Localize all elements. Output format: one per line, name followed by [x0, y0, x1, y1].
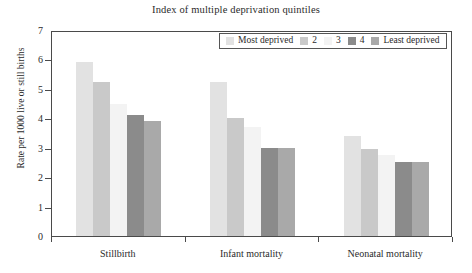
legend-swatch-icon — [371, 37, 379, 45]
y-tick-label: 1 — [3, 203, 43, 213]
bar — [395, 162, 412, 236]
bar — [278, 148, 295, 236]
legend-entry: Least deprived — [371, 36, 439, 46]
bar — [93, 82, 110, 237]
bar — [378, 155, 395, 236]
legend-entry: Most deprived — [226, 36, 293, 46]
bar — [261, 148, 278, 236]
bar — [210, 82, 227, 237]
bar — [361, 149, 378, 236]
y-tick-label: 7 — [3, 26, 43, 36]
y-tick-label: 5 — [3, 85, 43, 95]
x-tick-mark — [318, 237, 319, 242]
legend-swatch-icon — [226, 37, 234, 45]
bar — [144, 121, 161, 236]
bar — [412, 162, 429, 236]
legend-label: 4 — [360, 36, 365, 46]
x-tick-mark — [185, 237, 186, 242]
deprivation-quintiles-bar-chart: Index of multiple deprivation quintiles … — [0, 0, 472, 273]
legend-entry: 4 — [348, 36, 365, 46]
x-tick-mark — [452, 237, 453, 242]
legend-swatch-icon — [324, 37, 332, 45]
chart-legend: Most deprived234Least deprived — [219, 33, 447, 49]
bar — [110, 104, 127, 236]
bar — [244, 127, 261, 236]
legend-swatch-icon — [300, 37, 308, 45]
legend-entry: 2 — [300, 36, 317, 46]
y-tick-label: 2 — [3, 173, 43, 183]
x-tick-mark — [51, 237, 52, 242]
y-tick-label: 6 — [3, 55, 43, 65]
y-tick-label: 4 — [3, 114, 43, 124]
x-category-label-neonatal-mortality: Neonatal mortality — [318, 248, 452, 259]
y-tick-label: 0 — [3, 232, 43, 242]
legend-label: 2 — [312, 36, 317, 46]
bar — [227, 118, 244, 236]
bar — [344, 136, 361, 236]
chart-title: Index of multiple deprivation quintiles — [0, 4, 472, 15]
bar — [76, 62, 93, 236]
legend-label: 3 — [336, 36, 341, 46]
plot-area — [51, 31, 452, 237]
x-category-label-infant-mortality: Infant mortality — [185, 248, 319, 259]
legend-entry: 3 — [324, 36, 341, 46]
legend-swatch-icon — [348, 37, 356, 45]
y-tick-label: 3 — [3, 144, 43, 154]
bar — [127, 115, 144, 236]
x-category-label-stillbirth: Stillbirth — [51, 248, 185, 259]
legend-label: Least deprived — [383, 36, 439, 46]
legend-label: Most deprived — [238, 36, 293, 46]
